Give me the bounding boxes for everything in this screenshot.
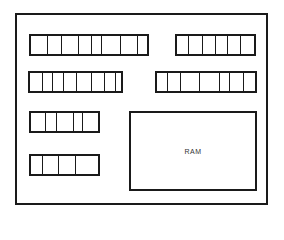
cell-divider	[137, 36, 138, 54]
ram-block: RAM	[129, 111, 257, 191]
cell-divider	[63, 73, 64, 91]
cell-divider	[243, 73, 244, 91]
cell-divider	[42, 73, 43, 91]
cell-divider	[73, 113, 74, 131]
cell-divider	[180, 73, 181, 91]
cell-divider	[120, 36, 121, 54]
cell-divider	[91, 36, 92, 54]
cell-divider	[115, 73, 116, 91]
cell-divider	[45, 113, 46, 131]
cell-divider	[219, 73, 220, 91]
cell-divider	[229, 73, 230, 91]
cell-divider	[47, 36, 48, 54]
ram-label: RAM	[184, 148, 201, 155]
cell-divider	[76, 73, 77, 91]
cell-divider	[215, 36, 216, 54]
cell-divider	[52, 73, 53, 91]
module-row3-left	[29, 111, 100, 133]
cell-divider	[104, 73, 105, 91]
cell-divider	[75, 156, 76, 174]
cell-divider	[42, 156, 43, 174]
cell-divider	[227, 36, 228, 54]
cell-divider	[91, 73, 92, 91]
module-row2-right	[155, 71, 257, 93]
cell-divider	[240, 36, 241, 54]
module-row2-left	[28, 71, 123, 93]
cell-divider	[199, 73, 200, 91]
cell-divider	[202, 36, 203, 54]
cell-divider	[188, 36, 189, 54]
module-row1-right	[175, 34, 256, 56]
cell-divider	[58, 156, 59, 174]
cell-divider	[167, 73, 168, 91]
cell-divider	[78, 36, 79, 54]
module-row1-left	[29, 34, 149, 56]
cell-divider	[101, 36, 102, 54]
module-row4-left	[29, 154, 100, 176]
cell-divider	[56, 113, 57, 131]
cell-divider	[82, 113, 83, 131]
cell-divider	[61, 36, 62, 54]
